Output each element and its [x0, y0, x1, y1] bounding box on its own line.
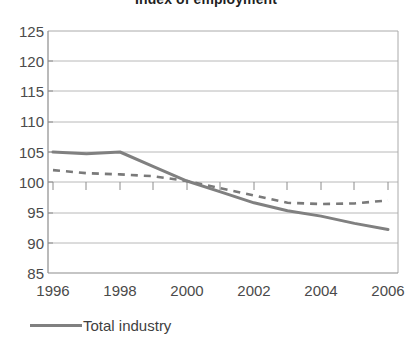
series-line-total-industry [53, 152, 388, 229]
plot-area [0, 0, 412, 345]
legend-swatch-total-industry [30, 324, 82, 327]
grid-lines [48, 31, 398, 243]
chart-legend: Total industry [30, 316, 171, 334]
x-axis-ticks [53, 182, 388, 190]
legend-label-total-industry: Total industry [83, 318, 171, 333]
chart-container: Index of employment 125 120 115 110 105 … [0, 0, 412, 345]
